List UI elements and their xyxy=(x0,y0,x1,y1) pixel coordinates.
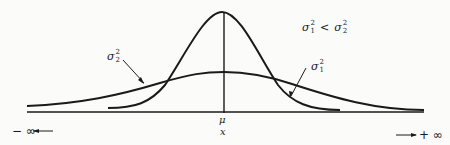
left-infinity-label: − ∞ xyxy=(12,124,36,138)
right-infinity-label: + ∞ xyxy=(419,128,443,142)
sigma1-pointer xyxy=(291,68,306,96)
sigma1-label: σ 21 xyxy=(311,58,324,74)
mean-label: μ xyxy=(219,115,226,125)
x-axis-label: x xyxy=(220,127,226,137)
sigma2-label: σ 22 xyxy=(107,48,120,64)
right-arrowhead xyxy=(411,133,417,137)
wide-curve xyxy=(27,72,424,110)
normal-distribution-diagram: σ 21 < σ 22 σ 22 σ 21 μ x − ∞ + ∞ xyxy=(0,0,450,145)
relation-label: σ 21 < σ 22 xyxy=(302,19,347,35)
